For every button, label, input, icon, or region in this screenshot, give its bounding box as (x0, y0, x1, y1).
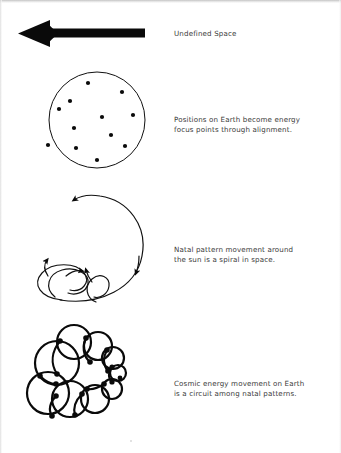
left-arrow-icon (18, 20, 145, 47)
caption-positions-on-earth: Positions on Earth become energy focus p… (174, 115, 329, 136)
caption-cosmic-energy-circuit: Cosmic energy movement on Earth is a cir… (174, 379, 334, 400)
caption-natal-pattern-spiral: Natal pattern movement around the sun is… (174, 245, 329, 266)
diagram-page: Undefined Space Positions on Earth becom… (0, 0, 341, 453)
caption-undefined-space: Undefined Space (174, 29, 324, 39)
figure-dotted-circle (0, 60, 180, 180)
figure-circuit-rosette (0, 318, 180, 443)
scan-speck (130, 440, 132, 442)
figure-spiral (0, 180, 180, 305)
